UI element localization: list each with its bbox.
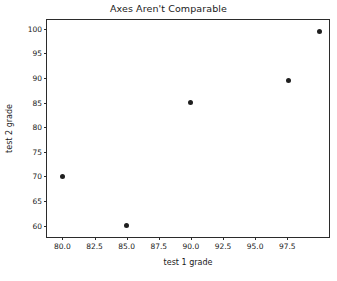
x-axis-tick-label: 97.5 (279, 242, 296, 251)
x-axis-tick-label: 92.5 (215, 242, 232, 251)
y-axis-tick (44, 53, 47, 54)
x-axis-tick-label: 85.0 (118, 242, 135, 251)
x-axis-tick (127, 237, 128, 240)
y-axis-tick-label: 95 (32, 49, 42, 58)
y-axis-tick (44, 201, 47, 202)
y-axis-label: test 2 grade (2, 0, 16, 257)
chart-title: Axes Aren't Comparable (0, 3, 337, 14)
x-axis-tick-label: 80.0 (54, 242, 71, 251)
y-axis-tick-label: 85 (32, 98, 42, 107)
data-point (124, 223, 129, 228)
y-axis-tick (44, 127, 47, 128)
y-axis-tick-label: 90 (32, 74, 42, 83)
y-axis-tick-label: 80 (32, 123, 42, 132)
data-point (317, 29, 322, 34)
y-axis-tick (44, 103, 47, 104)
x-axis-tick-label: 87.5 (150, 242, 167, 251)
y-axis-tick (44, 176, 47, 177)
y-axis-label-text: test 2 grade (5, 104, 14, 153)
x-axis-tick (255, 237, 256, 240)
scatter-chart-figure: Axes Aren't Comparable test 2 grade 80.0… (0, 0, 337, 281)
x-axis-tick (159, 237, 160, 240)
y-axis-tick-label: 100 (28, 24, 42, 33)
x-axis-tick-label: 82.5 (86, 242, 103, 251)
y-axis-tick (44, 152, 47, 153)
y-axis-tick-label: 75 (32, 147, 42, 156)
data-point (286, 78, 291, 83)
x-axis-tick (191, 237, 192, 240)
plot-axes: 80.082.585.087.590.092.595.097.560657075… (46, 19, 330, 238)
y-axis-tick-label: 70 (32, 172, 42, 181)
y-axis-tick-label: 65 (32, 197, 42, 206)
y-axis-tick (44, 29, 47, 30)
x-axis-tick (62, 237, 63, 240)
data-point (60, 174, 65, 179)
x-axis-tick (287, 237, 288, 240)
x-axis-tick (223, 237, 224, 240)
x-axis-tick (95, 237, 96, 240)
y-axis-tick-label: 60 (32, 221, 42, 230)
data-point (188, 100, 193, 105)
x-axis-tick-label: 90.0 (183, 242, 200, 251)
x-axis-tick-label: 95.0 (247, 242, 264, 251)
plot-area: 80.082.585.087.590.092.595.097.560657075… (47, 20, 329, 237)
y-axis-tick (44, 226, 47, 227)
x-axis-label: test 1 grade (46, 258, 330, 267)
y-axis-tick (44, 78, 47, 79)
